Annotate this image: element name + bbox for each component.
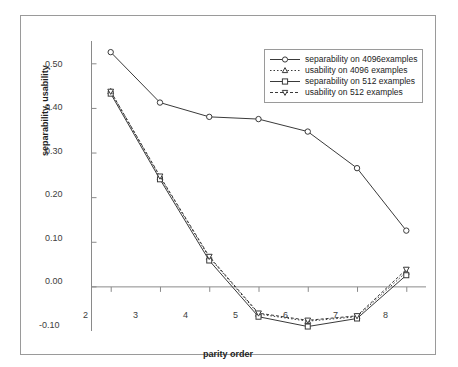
- data-point: [256, 116, 261, 121]
- legend-label-0: separability on 4096examples: [305, 54, 417, 65]
- legend-item-usability-4096: usability on 4096 examples: [269, 65, 417, 76]
- data-point: [207, 114, 212, 119]
- y-tick-label-1: 0.40: [45, 102, 63, 112]
- x-tick-label-0: 2: [83, 310, 88, 320]
- figure-frame: separability, usability parity order 0.5…: [20, 15, 436, 355]
- x-axis-title: parity order: [203, 349, 253, 359]
- data-point: [305, 129, 310, 134]
- y-tick-label-5: 0.00: [45, 276, 63, 286]
- y-tick-label-4: 0.10: [45, 233, 63, 243]
- data-point: [157, 100, 162, 105]
- legend-symbol-circle-solid: [269, 54, 301, 65]
- legend-item-separability-4096: separability on 4096examples: [269, 54, 417, 65]
- y-tick-label-0: 0.50: [45, 59, 63, 69]
- legend-symbol-triangle-down-dashed: [269, 87, 301, 98]
- data-point: [305, 324, 310, 329]
- chart-page: separability, usability parity order 0.5…: [0, 0, 458, 367]
- y-tick-label-2: 0.30: [45, 146, 63, 156]
- y-tick-label-3: 0.20: [45, 189, 63, 199]
- data-point: [404, 273, 409, 278]
- legend-item-separability-512: separability on 512 examples: [269, 76, 417, 87]
- legend-label-1: usability on 4096 examples: [305, 65, 408, 76]
- data-point: [354, 165, 359, 170]
- legend-symbol-triangle-dotted: [269, 65, 301, 76]
- y-tick-label-6: -0.10: [39, 320, 60, 330]
- legend-label-2: separability on 512 examples: [305, 76, 415, 87]
- legend-item-usability-512: usability on 512 examples: [269, 87, 417, 98]
- series-line-3: [111, 91, 407, 320]
- data-point: [404, 228, 409, 233]
- chart-legend: separability on 4096examples usability o…: [264, 49, 423, 103]
- legend-label-3: usability on 512 examples: [305, 87, 403, 98]
- data-point: [108, 49, 113, 54]
- legend-symbol-square-solid: [269, 76, 301, 87]
